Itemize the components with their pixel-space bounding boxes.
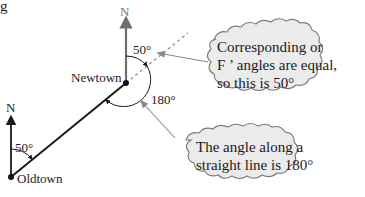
oldtown-north-label: N: [6, 100, 15, 116]
newtown-label: Newtown: [71, 70, 122, 86]
callout-line: straight line is 180°: [196, 156, 313, 174]
callout-line: Corresponding or: [217, 38, 337, 56]
callout-line: F ’ angles are equal,: [217, 56, 337, 74]
bearing-diagram: g N N Newtown Oldtown 50° 180° 50° Corre…: [0, 0, 365, 197]
cutoff-text-fragment: g: [0, 0, 8, 15]
corresponding-pointer: [158, 53, 208, 62]
newtown-180-label: 180°: [151, 92, 176, 108]
oldtown-label: Oldtown: [17, 171, 63, 187]
oldtown-50-label: 50°: [15, 140, 33, 156]
corresponding-callout-text: Corresponding or F ’ angles are equal, s…: [217, 38, 337, 92]
route-line: [11, 83, 126, 177]
callout-line: The angle along a: [196, 138, 313, 156]
callout-line: so this is 50°: [217, 74, 337, 92]
newtown-50-label: 50°: [133, 42, 151, 58]
oldtown-dot: [8, 174, 14, 180]
straight-line-callout-text: The angle along a straight line is 180°: [196, 138, 313, 174]
newtown-north-label: N: [120, 4, 129, 20]
newtown-dot: [123, 80, 129, 86]
